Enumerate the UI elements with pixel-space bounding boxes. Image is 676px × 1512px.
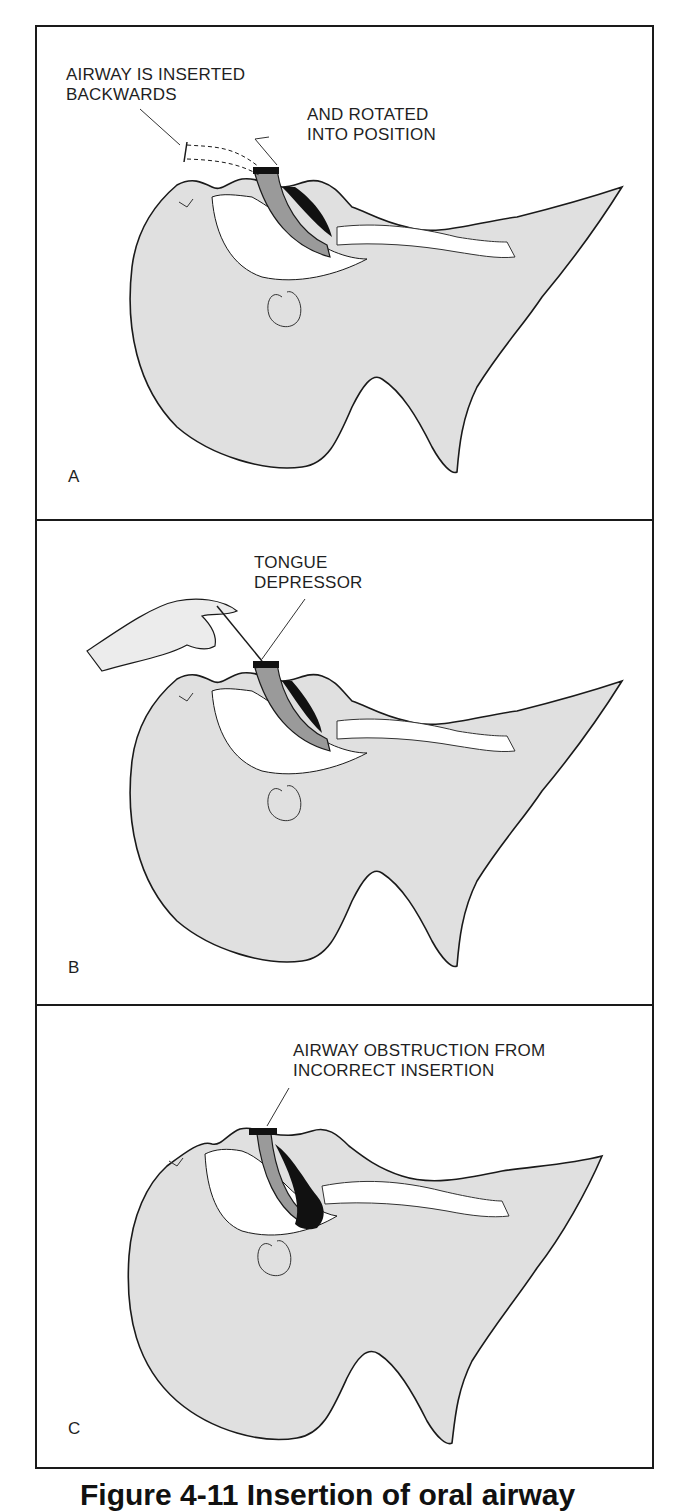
callout-line: BACKWARDS bbox=[66, 85, 245, 105]
airway-path-dashed-upper bbox=[187, 145, 259, 167]
panel-b: TONGUE DEPRESSOR B bbox=[37, 519, 652, 1006]
airway-flange bbox=[253, 661, 279, 668]
leader-line-inserted bbox=[140, 109, 180, 145]
panel-a: AIRWAY IS INSERTED BACKWARDS AND ROTATED… bbox=[37, 27, 652, 519]
figure-frame: AIRWAY IS INSERTED BACKWARDS AND ROTATED… bbox=[35, 25, 654, 1469]
callout-line: TONGUE bbox=[254, 553, 363, 573]
figure-caption: Figure 4-11 Insertion of oral airway bbox=[80, 1478, 575, 1512]
leader-line-tongue-depressor bbox=[262, 599, 305, 659]
callout-line: INCORRECT INSERTION bbox=[293, 1061, 545, 1081]
panel-label-a: A bbox=[68, 467, 79, 487]
callout-rotated-into-position: AND ROTATED INTO POSITION bbox=[307, 105, 436, 145]
panel-label-c: C bbox=[68, 1419, 80, 1439]
leader-line-rotated-a bbox=[255, 139, 277, 165]
leader-line-rotated-b bbox=[255, 137, 269, 139]
head-silhouette bbox=[130, 179, 622, 473]
hand bbox=[87, 599, 237, 671]
head-silhouette bbox=[130, 673, 622, 967]
callout-inserted-backwards: AIRWAY IS INSERTED BACKWARDS bbox=[66, 65, 245, 105]
callout-line: AIRWAY IS INSERTED bbox=[66, 65, 245, 85]
airway-flange bbox=[253, 167, 279, 174]
airway-flange bbox=[249, 1128, 277, 1135]
head-silhouette bbox=[128, 1128, 602, 1443]
panel-label-b: B bbox=[68, 958, 79, 978]
callout-line: AIRWAY OBSTRUCTION FROM bbox=[293, 1041, 545, 1061]
head-profile-illustration-b bbox=[37, 521, 652, 1006]
callout-line: DEPRESSOR bbox=[254, 573, 363, 593]
leader-line-obstruction bbox=[267, 1088, 289, 1126]
tongue-depressor bbox=[217, 606, 262, 661]
callout-airway-obstruction: AIRWAY OBSTRUCTION FROM INCORRECT INSERT… bbox=[293, 1041, 545, 1081]
ghost-airway-flange bbox=[184, 142, 187, 162]
callout-line: AND ROTATED bbox=[307, 105, 436, 125]
airway-path-dashed-lower bbox=[187, 159, 259, 175]
callout-line: INTO POSITION bbox=[307, 125, 436, 145]
callout-tongue-depressor: TONGUE DEPRESSOR bbox=[254, 553, 363, 593]
panel-c: AIRWAY OBSTRUCTION FROM INCORRECT INSERT… bbox=[37, 1004, 652, 1469]
